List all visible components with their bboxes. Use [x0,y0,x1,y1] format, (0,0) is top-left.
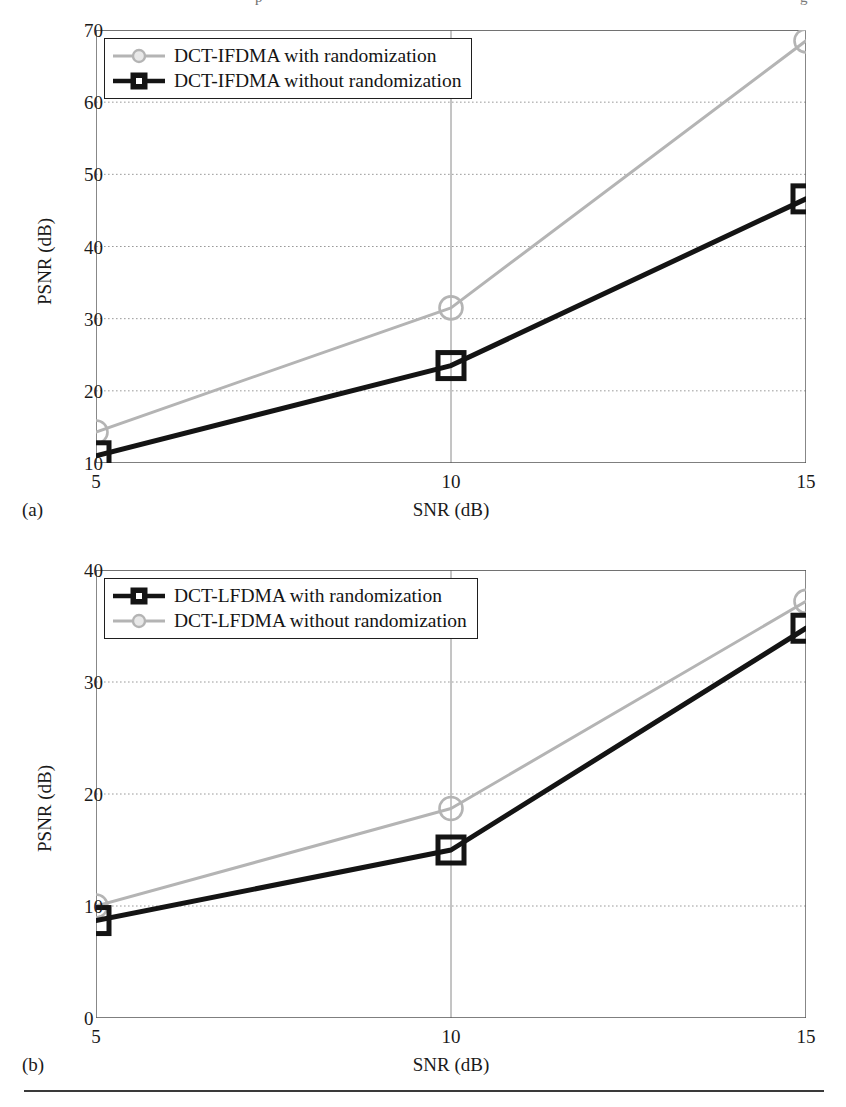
legend-row: DCT-IFDMA with randomization [113,43,461,68]
figure-b-subcaption: (b) [22,1054,44,1076]
legend-label: DCT-LFDMA with randomization [174,586,442,606]
figure-b-x-axis-title: SNR (dB) [96,1054,806,1076]
legend-label: DCT-IFDMA without randomization [174,71,461,91]
legend-row: DCT-IFDMA without randomization [113,68,461,93]
figure-b-legend: DCT-LFDMA with randomizationDCT-LFDMA wi… [104,578,478,639]
legend-square-marker-icon [113,587,165,605]
legend-row: DCT-LFDMA without randomization [113,608,467,633]
figure-a-x-axis-title: SNR (dB) [96,499,806,521]
figure-b-y-axis-title: PSNR (dB) [34,765,56,852]
footer-divider [24,1090,824,1092]
legend-square-marker-icon [113,72,165,90]
legend-circle-marker-icon [113,47,165,65]
legend-label: DCT-LFDMA without randomization [174,611,467,631]
legend-row: DCT-LFDMA with randomization [113,583,467,608]
figure-b-x-tick: 5 [91,1027,101,1046]
legend-label: DCT-IFDMA with randomization [174,46,437,66]
figure-b: PSNR (dB) SNR (dB) (b) DCT-LFDMA with ra… [0,545,846,1065]
figure-page: p g PSNR (dB) SNR (dB) (a) DCT-IFDMA wit… [0,0,846,1107]
figure-a-x-tick: 5 [91,472,101,491]
figure-a-x-tick: 10 [442,472,461,491]
legend-circle-marker-icon [113,612,165,630]
figure-a-legend: DCT-IFDMA with randomizationDCT-IFDMA wi… [104,38,472,99]
figure-a-y-axis-title: PSNR (dB) [34,217,56,304]
figure-b-x-tick: 15 [797,1027,816,1046]
figure-b-x-tick: 10 [442,1027,461,1046]
figure-a-x-tick: 15 [797,472,816,491]
figure-a: PSNR (dB) SNR (dB) (a) DCT-IFDMA with ra… [0,0,846,545]
figure-a-subcaption: (a) [22,499,43,521]
